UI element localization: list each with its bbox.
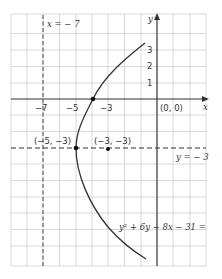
y-axis-label: y: [147, 14, 153, 24]
focus-point: [106, 147, 110, 151]
parabola-graph: x = − 7 y x 3 2 1 −7 −5 −3 (0, 0) (−5, −…: [0, 0, 222, 279]
y-tick-2: 2: [147, 61, 152, 71]
x-axis-label: x: [203, 102, 208, 112]
x-intercept-point: [91, 97, 96, 102]
axis-of-symmetry-label: y = − 3: [175, 152, 209, 162]
vertex-point: [74, 146, 79, 151]
equation-label: y² + 6y − 8x − 31 =: [118, 222, 206, 232]
y-tick-3: 3: [147, 45, 152, 55]
vertex-label: (−5, −3): [34, 136, 71, 146]
y-tick-1: 1: [147, 78, 152, 88]
origin-label: (0, 0): [160, 103, 183, 113]
x-tick-neg3: −3: [100, 103, 113, 113]
x-tick-neg5: −5: [66, 103, 79, 113]
focus-label: (−3, −3): [94, 136, 131, 146]
directrix-label: x = − 7: [47, 19, 80, 29]
x-tick-neg7: −7: [35, 103, 48, 113]
